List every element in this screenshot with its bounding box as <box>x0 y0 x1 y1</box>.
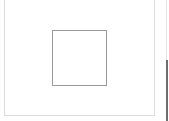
right-edge-divider <box>166 0 167 60</box>
right-edge-scrollbar[interactable] <box>166 60 168 121</box>
square-shape[interactable] <box>52 30 107 86</box>
canvas-viewport <box>0 0 169 121</box>
